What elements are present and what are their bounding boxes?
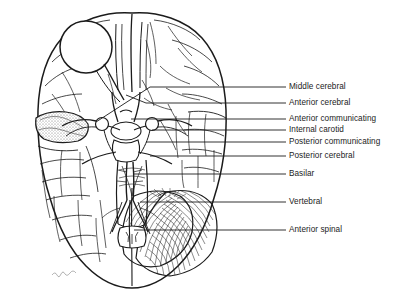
artist-signature xyxy=(52,271,76,277)
brain-outline xyxy=(30,13,286,288)
label-middle-cerebral: Middle cerebral xyxy=(289,82,346,91)
label-anterior-communicating: Anterior communicating xyxy=(289,114,376,123)
label-basilar: Basilar xyxy=(289,169,314,178)
label-vertebral: Vertebral xyxy=(289,197,322,206)
label-internal-carotid: Internal carotid xyxy=(289,125,344,134)
label-anterior-cerebral: Anterior cerebral xyxy=(289,98,350,107)
label-posterior-communicating: Posterior communicating xyxy=(289,137,380,146)
label-posterior-cerebral: Posterior cerebral xyxy=(289,151,355,160)
circle-of-willis xyxy=(62,92,192,248)
label-anterior-spinal: Anterior spinal xyxy=(289,225,342,234)
